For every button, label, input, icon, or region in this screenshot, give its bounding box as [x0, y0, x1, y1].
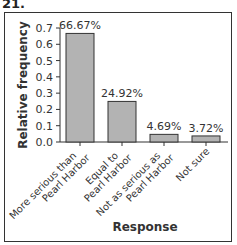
y-axis-label: Relative frequency	[16, 21, 30, 149]
x-axis-label: Response	[112, 220, 177, 234]
data-label: 66.67%	[59, 19, 101, 32]
y-tick-label: 0.7	[36, 22, 54, 35]
y-tick-label: 0.5	[36, 55, 54, 68]
y-tick-label: 0.2	[36, 103, 54, 116]
y-tick-label: 0.6	[36, 38, 54, 51]
bar	[192, 136, 220, 142]
bar	[66, 33, 94, 142]
category-label: More serious thanPearl Harbor	[7, 144, 92, 229]
data-label: 4.69%	[147, 120, 182, 133]
bar	[150, 134, 178, 142]
y-tick-label: 0.0	[36, 136, 54, 149]
y-tick-label: 0.4	[36, 71, 54, 84]
category-label: Not sure	[174, 146, 212, 184]
bar-chart: 0.00.10.20.30.40.50.60.7Relative frequen…	[0, 0, 237, 245]
bar	[108, 101, 136, 142]
y-tick-label: 0.1	[36, 120, 54, 133]
data-label: 24.92%	[101, 87, 143, 100]
data-label: 3.72%	[189, 122, 224, 135]
y-tick-label: 0.3	[36, 87, 54, 100]
